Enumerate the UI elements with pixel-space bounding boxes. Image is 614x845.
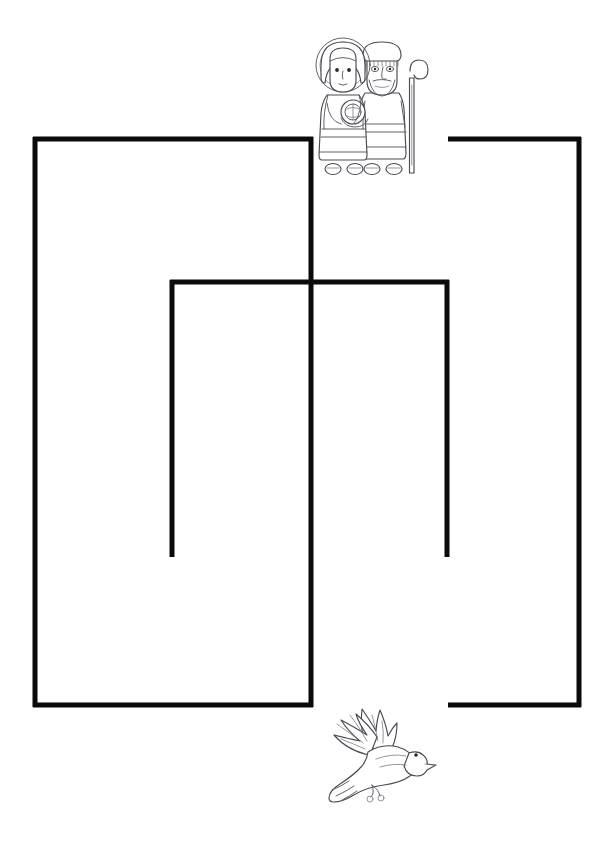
holy-family-illustration — [305, 33, 440, 178]
dove-icon — [329, 709, 436, 802]
dove-illustration — [310, 697, 440, 812]
shepherd-staff-icon — [410, 60, 429, 173]
worksheet-page — [0, 0, 614, 845]
mary-figure — [316, 38, 370, 175]
